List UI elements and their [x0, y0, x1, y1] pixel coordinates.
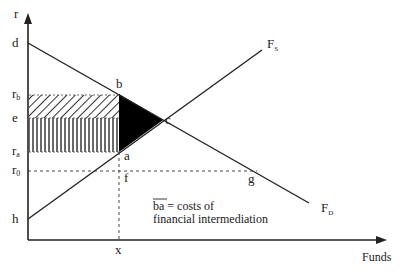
x-axis-label: Funds [362, 250, 392, 264]
x-axis-arrow-icon [376, 236, 387, 244]
label-e: e [12, 110, 18, 125]
label-ra: ra [12, 143, 20, 159]
point-a: a [124, 148, 130, 163]
note-line1: ba = costs of [153, 199, 214, 213]
label-h: h [12, 211, 19, 226]
point-b: b [116, 76, 123, 91]
intermediation-diagram: r Funds d rb e ra r0 h x b c a f g FS FD… [0, 0, 408, 272]
point-g: g [248, 171, 255, 186]
point-f: f [124, 170, 129, 185]
label-rb: rb [12, 86, 20, 102]
label-x: x [115, 242, 122, 257]
y-axis-label: r [14, 6, 19, 21]
vertical-hatch-area [29, 118, 119, 152]
label-d: d [12, 35, 19, 50]
demand-label: FD [321, 200, 333, 217]
label-r0: r0 [12, 162, 20, 178]
diagonal-hatch-area [29, 95, 119, 118]
note-line2: financial intermediation [153, 212, 268, 226]
y-axis-arrow-icon [24, 13, 32, 24]
point-c: c [165, 112, 171, 127]
supply-label: FS [267, 36, 278, 53]
deadweight-triangle [119, 94, 163, 152]
